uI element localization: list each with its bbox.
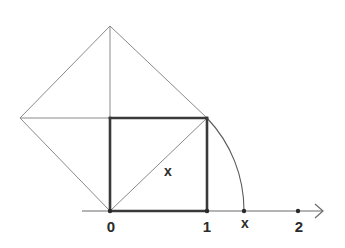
diamond-edge-top-left <box>20 26 110 118</box>
sqrt2-construction-diagram: 0 1 x 2 x <box>0 0 345 248</box>
point-x <box>242 209 246 213</box>
label-x-axis: x <box>241 215 249 231</box>
point-one <box>205 209 209 213</box>
rotation-arc <box>207 118 244 211</box>
diagonal-x <box>110 118 207 211</box>
label-one: 1 <box>203 218 211 235</box>
diamond-edge-bottom-left <box>20 118 110 211</box>
label-diagonal-x: x <box>164 163 172 179</box>
label-origin: 0 <box>107 218 115 235</box>
point-two <box>296 209 300 213</box>
point-origin <box>108 209 112 213</box>
diamond-edge-top-right <box>110 26 207 118</box>
label-two: 2 <box>295 218 303 235</box>
